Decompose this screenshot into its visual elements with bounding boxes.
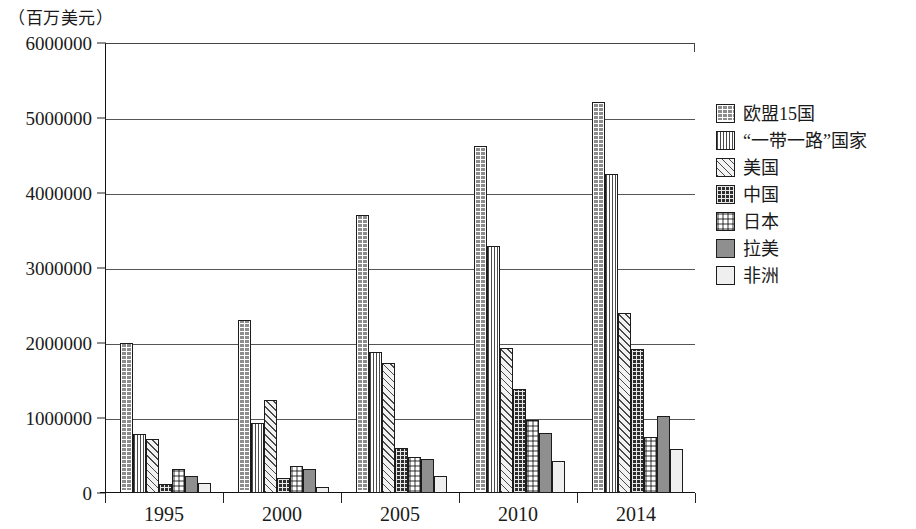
legend-item: 拉美 [716, 235, 916, 262]
bar [670, 449, 683, 493]
legend-label: 美国 [743, 159, 779, 177]
legend-swatch-icon [716, 131, 735, 150]
legend-label: 中国 [743, 186, 779, 204]
bar-group-2005 [342, 215, 460, 493]
bar [657, 416, 670, 493]
legend-item: “一带一路”国家 [716, 127, 916, 154]
bar [474, 146, 487, 493]
bar-group-2000 [224, 320, 342, 493]
bar-group-2014 [578, 102, 696, 493]
axis-right-cap [694, 43, 695, 52]
bar [618, 313, 631, 493]
bar [356, 215, 369, 493]
legend-label: 欧盟15国 [743, 105, 815, 123]
y-axis-tick-label: 1000000 [0, 409, 92, 428]
x-axis-tick-mark [105, 493, 106, 503]
y-axis-tick-label: 0 [0, 484, 92, 503]
bar [526, 420, 539, 493]
legend-label: 拉美 [743, 240, 779, 258]
bar [251, 423, 264, 493]
bar [552, 461, 565, 493]
legend-item: 欧盟15国 [716, 100, 916, 127]
legend-swatch-icon [716, 239, 735, 258]
x-axis-label-2010: 2010 [458, 503, 578, 526]
bar [539, 433, 552, 493]
legend-swatch-icon [716, 212, 735, 231]
bar [133, 434, 146, 493]
bar [146, 439, 159, 493]
legend-label: 非洲 [743, 267, 779, 285]
legend-swatch-icon [716, 158, 735, 177]
bar [264, 400, 277, 493]
bar [369, 352, 382, 493]
bar [644, 437, 657, 493]
bar [605, 174, 618, 493]
bar [631, 349, 644, 493]
bar [198, 483, 211, 493]
bar [277, 478, 290, 493]
legend-label: “一带一路”国家 [743, 132, 867, 150]
bar [185, 476, 198, 493]
bar [238, 320, 251, 493]
bar [316, 487, 329, 493]
x-axis-tick-mark [223, 493, 224, 503]
bar [421, 459, 434, 493]
bar [159, 484, 172, 493]
bar [592, 102, 605, 493]
legend-item: 日本 [716, 208, 916, 235]
legend-label: 日本 [743, 213, 779, 231]
plot-area [105, 43, 695, 493]
x-axis-label-2005: 2005 [340, 503, 460, 526]
bar [513, 389, 526, 493]
x-axis-tick-mark [695, 493, 696, 503]
y-axis-tick-label: 4000000 [0, 184, 92, 203]
bar-chart: （百万美元） 600000050000004000000300000020000… [0, 0, 916, 529]
chart-legend: 欧盟15国“一带一路”国家美国中国日本拉美非洲 [716, 100, 916, 289]
legend-item: 非洲 [716, 262, 916, 289]
legend-swatch-icon [716, 266, 735, 285]
bar [382, 363, 395, 493]
y-axis-tick-label: 3000000 [0, 259, 92, 278]
x-axis-label-2014: 2014 [576, 503, 696, 526]
bar [434, 476, 447, 493]
x-axis-label-1995: 1995 [104, 503, 224, 526]
legend-item: 中国 [716, 181, 916, 208]
x-axis-tick-mark [577, 493, 578, 503]
y-axis-tick-label: 5000000 [0, 109, 92, 128]
bar [290, 466, 303, 493]
bar [408, 457, 421, 493]
x-axis-label-2000: 2000 [222, 503, 342, 526]
x-axis-tick-mark [341, 493, 342, 503]
bar [487, 246, 500, 493]
bar [303, 469, 316, 493]
legend-item: 美国 [716, 154, 916, 181]
bar [172, 469, 185, 493]
plot-inner [106, 44, 695, 493]
bar-group-2010 [460, 146, 578, 493]
legend-swatch-icon [716, 104, 735, 123]
legend-swatch-icon [716, 185, 735, 204]
bar [395, 448, 408, 493]
x-axis-tick-mark [459, 493, 460, 503]
bar [120, 343, 133, 493]
bar-group-1995 [106, 343, 224, 493]
y-axis-tick-label: 6000000 [0, 34, 92, 53]
y-axis-tick-label: 2000000 [0, 334, 92, 353]
bar [500, 348, 513, 493]
